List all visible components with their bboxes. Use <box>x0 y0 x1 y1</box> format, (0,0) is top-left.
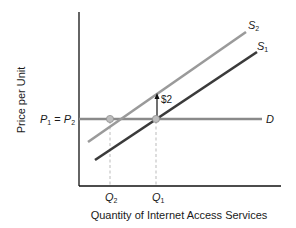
y-axis-title: Price per Unit <box>15 67 27 134</box>
s2-label: S2 <box>248 19 259 32</box>
supply-demand-chart: Price per Unit P1 = P2 S2 S1 D $2 Q2 Q1 … <box>0 0 296 228</box>
supply-s2-line <box>88 32 246 142</box>
q2-tick-label: Q2 <box>105 191 118 204</box>
d-label: D <box>266 113 274 125</box>
s1-label: S1 <box>257 40 268 53</box>
price-label: P1 = P2 <box>40 113 75 126</box>
q1-tick-label: Q1 <box>152 191 165 204</box>
supply-s1-line <box>95 52 257 160</box>
shift-amount-label: $2 <box>161 94 173 105</box>
x-axis-title: Quantity of Internet Access Services <box>91 209 268 221</box>
equilibrium-point-q2 <box>106 115 113 122</box>
equilibrium-point-q1 <box>152 115 159 122</box>
